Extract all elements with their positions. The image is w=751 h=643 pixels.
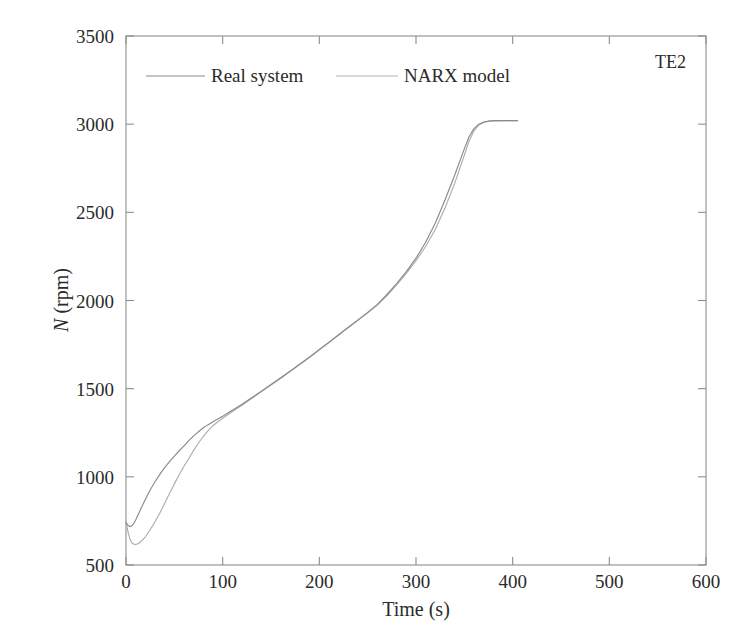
y-tick-label: 3000	[76, 114, 114, 135]
chart-svg: 0100200300400500600 50010001500200025003…	[0, 0, 751, 643]
x-axis-title: Time (s)	[382, 598, 450, 621]
x-tick-label: 500	[595, 571, 624, 592]
legend-label-real-system: Real system	[211, 65, 304, 86]
x-axis-tick-labels: 0100200300400500600	[121, 571, 720, 592]
chart-annotation-label: TE2	[655, 52, 686, 72]
x-tick-label: 100	[208, 571, 237, 592]
y-tick-label: 3500	[76, 26, 114, 47]
y-tick-label: 1000	[76, 467, 114, 488]
y-axis-title-group: N (rpm)	[50, 268, 73, 333]
y-tick-label: 1500	[76, 379, 114, 400]
x-tick-label: 400	[498, 571, 527, 592]
x-tick-label: 600	[692, 571, 721, 592]
x-axis-ticks	[126, 36, 706, 565]
y-axis-title: N (rpm)	[50, 268, 73, 333]
plot-frame	[126, 36, 706, 565]
x-tick-label: 0	[121, 571, 131, 592]
x-tick-label: 300	[402, 571, 431, 592]
x-tick-label: 200	[305, 571, 334, 592]
y-tick-label: 2500	[76, 202, 114, 223]
y-tick-label: 500	[86, 555, 115, 576]
legend: Real system NARX model	[146, 65, 510, 86]
legend-label-narx-model: NARX model	[404, 65, 510, 86]
series-line-narx-model	[126, 121, 518, 545]
chart-figure: 0100200300400500600 50010001500200025003…	[0, 0, 751, 643]
y-axis-tick-labels: 500100015002000250030003500	[76, 26, 114, 576]
y-tick-label: 2000	[76, 291, 114, 312]
y-axis-ticks	[126, 36, 706, 565]
